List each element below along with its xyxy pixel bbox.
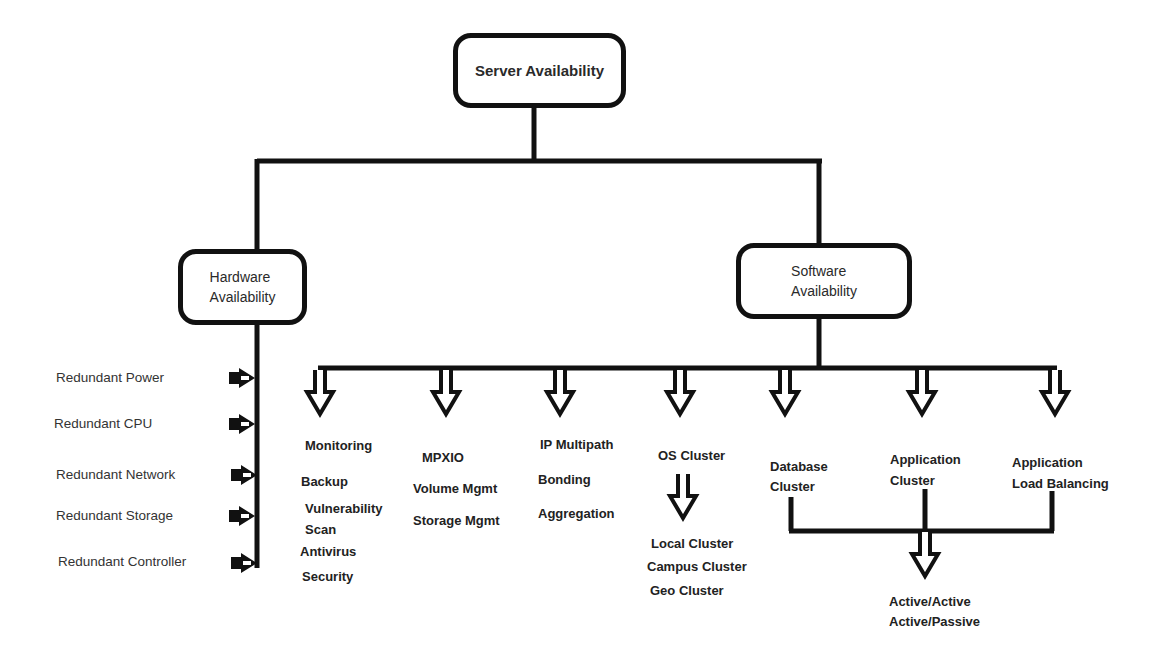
software-group-item: Bonding [538, 471, 591, 488]
software-group-title: Cluster [770, 478, 815, 495]
software-group-item: Storage Mgmt [413, 512, 500, 529]
software-group-item: Campus Cluster [647, 558, 747, 575]
software-label-line1: Software [791, 261, 857, 281]
software-group-title: Database [770, 458, 828, 475]
node-software-availability: Software Availability [736, 243, 912, 319]
cluster-mode: Active/Active [889, 593, 971, 610]
hardware-item: Redundant Power [56, 369, 164, 386]
software-group-item: Security [302, 568, 353, 585]
software-group-item: Scan [305, 521, 336, 538]
software-group-item: Geo Cluster [650, 582, 724, 599]
hardware-item: Redundant CPU [54, 415, 152, 432]
software-group-item: Aggregation [538, 505, 615, 522]
software-group-item: Vulnerability [305, 500, 383, 517]
hardware-item: Redundant Network [56, 466, 175, 483]
hardware-label-line1: Hardware [210, 267, 276, 287]
software-group-title: IP Multipath [540, 436, 613, 453]
root-node-label: Server Availability [475, 61, 604, 81]
right-arrow-icon [229, 368, 257, 573]
software-group-title: Application [890, 451, 961, 468]
software-group-title: Application [1012, 454, 1083, 471]
software-group-title: OS Cluster [658, 447, 725, 464]
node-hardware-availability: Hardware Availability [178, 249, 307, 325]
software-label-line2: Availability [791, 281, 857, 301]
cluster-mode: Active/Passive [889, 613, 980, 630]
software-group-title: Cluster [890, 472, 935, 489]
software-group-item: Antivirus [300, 543, 356, 560]
hardware-label-line2: Availability [210, 287, 276, 307]
hardware-item: Redundant Storage [56, 507, 173, 524]
software-group-title: Load Balancing [1012, 475, 1109, 492]
software-group-item: Backup [301, 473, 348, 490]
software-group-title: MPXIO [422, 449, 464, 466]
software-group-title: Monitoring [305, 437, 372, 454]
root-node-server-availability: Server Availability [453, 33, 626, 108]
software-group-item: Local Cluster [651, 535, 733, 552]
hardware-item: Redundant Controller [58, 553, 186, 570]
software-group-item: Volume Mgmt [413, 480, 497, 497]
